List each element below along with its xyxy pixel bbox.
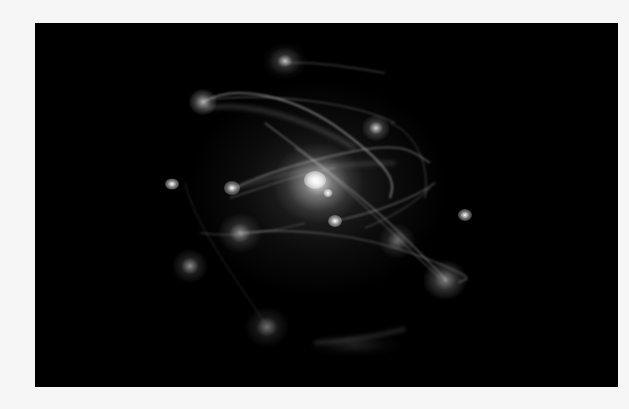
satellite-left: [165, 179, 179, 190]
core-bright: [304, 171, 326, 189]
satellite-mid: [328, 215, 342, 227]
satellite-top: [263, 43, 307, 79]
satellite-lower-right: [423, 260, 467, 300]
satellite-inner-left: [224, 181, 240, 195]
satellite-upper-left: [189, 89, 217, 115]
satellite-left-lower: [218, 213, 262, 253]
stream-bottom: [310, 333, 400, 357]
galaxy-image: Simulated galaxy cluster with glowing ce…: [35, 23, 618, 387]
satellite-far-left: [172, 249, 208, 283]
satellite-right: [458, 209, 472, 221]
core-secondary: [324, 189, 333, 197]
satellite-bottom: [245, 307, 289, 347]
satellite-right-mid: [379, 224, 415, 258]
satellite-upper-right: [362, 115, 390, 141]
